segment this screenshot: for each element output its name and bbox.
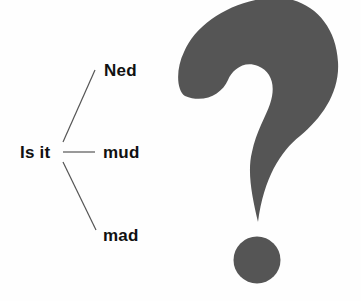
question-mark-icon xyxy=(0,0,361,301)
diagram-canvas: Is it Ned mud mad xyxy=(0,0,361,301)
question-mark-dot xyxy=(234,237,281,284)
